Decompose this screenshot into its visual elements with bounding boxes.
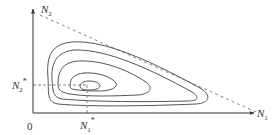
orbit-4 xyxy=(52,50,197,102)
phase-plane-diagram: N2 N1 0 N2* N1* xyxy=(0,0,279,135)
closed-orbits xyxy=(48,42,208,106)
dashed-diagonal-line xyxy=(40,15,256,112)
equilibrium-n2-label: N2* xyxy=(11,77,27,94)
origin-label: 0 xyxy=(27,120,33,132)
orbit-outer xyxy=(48,42,208,106)
equilibrium-n1-label: N1* xyxy=(79,116,95,134)
orbit-2 xyxy=(70,73,116,91)
x-axis-label: N1 xyxy=(256,107,268,122)
